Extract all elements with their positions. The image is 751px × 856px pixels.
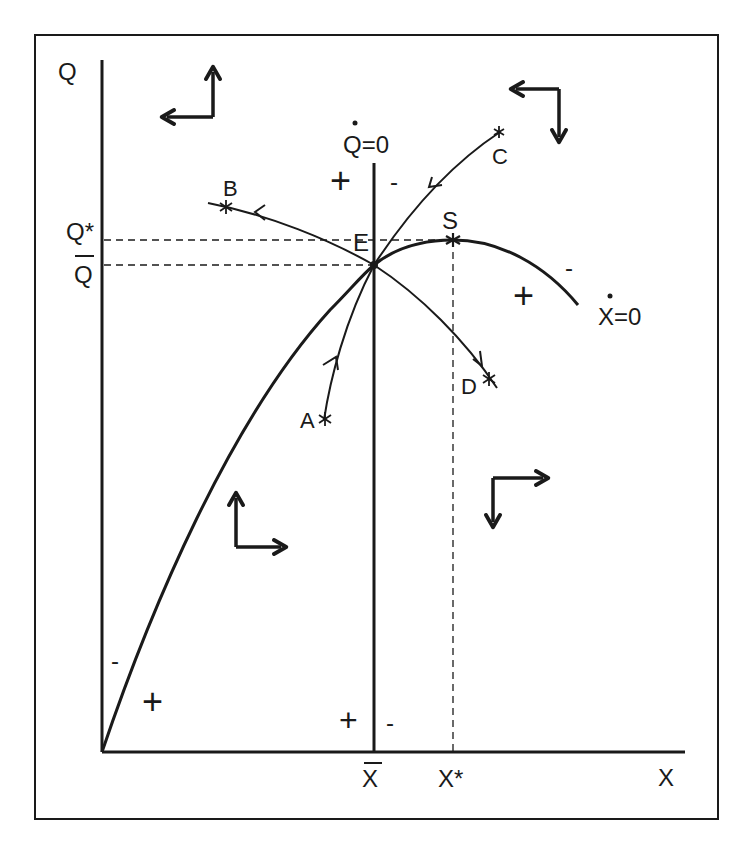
point-label-e: E xyxy=(353,229,369,256)
phase-diagram: Q X Q* Q X X* Q=0 X=0 E S A B C D + - + … xyxy=(0,0,751,856)
sign-plus-xdot-below-right: + xyxy=(513,275,534,316)
direction-arrows-upper-left xyxy=(167,72,213,117)
sign-minus-xdot-above-left: - xyxy=(111,647,119,674)
point-label-s: S xyxy=(442,207,458,234)
q-star-label: Q* xyxy=(66,218,94,245)
point-label-c: C xyxy=(492,144,508,169)
qdot-dot xyxy=(353,121,358,126)
point-label-a: A xyxy=(300,408,315,433)
qdot-nullcline-label: Q=0 xyxy=(343,131,389,158)
y-axis-label: Q xyxy=(58,58,77,85)
x-star-label: X* xyxy=(438,765,463,792)
direction-arrows-lower-left xyxy=(236,498,281,547)
point-label-d: D xyxy=(461,374,477,399)
q-bar-label: Q xyxy=(74,261,93,288)
sign-plus-qdot-left: + xyxy=(330,160,351,201)
trajectory-c-to-e xyxy=(374,132,500,265)
xdot-nullcline-label: X=0 xyxy=(598,303,641,330)
trajectory-e-to-d xyxy=(374,265,497,388)
sign-plus-xdot-below-left: + xyxy=(142,681,163,722)
sign-minus-qdot-bottom-right: - xyxy=(386,709,394,736)
point-label-b: B xyxy=(223,176,238,201)
arrow-toward-b xyxy=(255,205,265,220)
sign-minus-xdot-above-right: - xyxy=(565,254,573,281)
x-bar-label: X xyxy=(362,765,378,792)
sign-plus-qdot-bottom-left: + xyxy=(339,702,358,738)
direction-arrows-upper-right xyxy=(516,89,559,137)
xdot-nullcline xyxy=(102,240,578,752)
direction-arrows-lower-right xyxy=(493,478,543,522)
sign-minus-qdot-right: - xyxy=(390,168,398,195)
x-axis-label: X xyxy=(658,764,674,791)
xdot-dot xyxy=(608,294,613,299)
star-marker-a xyxy=(319,412,331,426)
trajectory-e-to-b xyxy=(208,203,374,265)
equilibrium-point-e xyxy=(370,261,378,269)
